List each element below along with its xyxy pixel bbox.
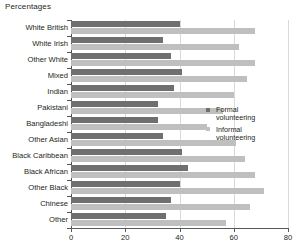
bar-formal [71, 133, 163, 139]
x-axis-tick-label: 80 [278, 233, 298, 242]
chart-legend: Formal volunteering Informal volunteerin… [206, 106, 302, 146]
volunteering-bar-chart: Percentages White BritishWhite IrishOthe… [0, 0, 304, 250]
category-tick [67, 132, 71, 133]
legend-item-informal: Informal volunteering [206, 126, 302, 143]
bar-formal [71, 117, 158, 123]
bar-formal [71, 181, 180, 187]
bar-informal [71, 28, 255, 34]
bar-informal [71, 204, 250, 210]
x-axis-tick [180, 228, 181, 232]
bar-group [71, 165, 288, 181]
category-tick [67, 180, 71, 181]
bar-group [71, 37, 288, 53]
legend-swatch-informal-icon [206, 127, 210, 131]
bar-group [71, 213, 288, 229]
bar-informal [71, 76, 247, 82]
bar-formal [71, 149, 182, 155]
x-axis-tick-label: 20 [115, 233, 135, 242]
bar-formal [71, 53, 171, 59]
bar-group [71, 197, 288, 213]
category-label: Pakistani [2, 104, 68, 112]
bar-informal [71, 220, 226, 226]
bar-group [71, 149, 288, 165]
x-axis-tick-label: 40 [170, 233, 190, 242]
bar-informal [71, 92, 234, 98]
bar-formal [71, 213, 166, 219]
bar-formal [71, 69, 182, 75]
bar-informal [71, 124, 207, 130]
category-tick [67, 164, 71, 165]
bar-formal [71, 165, 188, 171]
category-tick [67, 100, 71, 101]
bar-formal [71, 21, 180, 27]
bar-informal [71, 60, 255, 66]
category-label: White Irish [2, 40, 68, 48]
category-label: Other [2, 216, 68, 224]
x-axis-tick [288, 228, 289, 232]
legend-swatch-formal-icon [206, 108, 210, 112]
category-label: Other Black [2, 184, 68, 192]
bar-informal [71, 188, 264, 194]
x-axis-tick-label: 0 [61, 233, 81, 242]
chart-title: Percentages [5, 2, 51, 11]
bar-informal [71, 172, 255, 178]
category-label: Black Caribbean [2, 152, 68, 160]
bar-formal [71, 101, 158, 107]
bar-formal [71, 37, 163, 43]
category-label: Other White [2, 56, 68, 64]
x-axis-tick-label: 60 [224, 233, 244, 242]
x-axis-tick [125, 228, 126, 232]
legend-label-formal: Formal volunteering [216, 106, 302, 123]
category-tick [67, 148, 71, 149]
category-axis-labels: White BritishWhite IrishOther WhiteMixed… [0, 20, 68, 228]
category-tick [67, 52, 71, 53]
category-label: White British [2, 24, 68, 32]
category-label: Black African [2, 168, 68, 176]
bar-group [71, 85, 288, 101]
category-label: Bangladeshi [2, 120, 68, 128]
bar-group [71, 53, 288, 69]
category-label: Other Asian [2, 136, 68, 144]
category-label: Mixed [2, 72, 68, 80]
category-tick [67, 20, 71, 21]
category-label: Chinese [2, 200, 68, 208]
bar-group [71, 69, 288, 85]
category-tick [67, 116, 71, 117]
bar-formal [71, 197, 171, 203]
legend-label-informal: Informal volunteering [216, 126, 302, 143]
bar-informal [71, 44, 239, 50]
bar-group [71, 21, 288, 37]
category-tick [67, 212, 71, 213]
bar-informal [71, 108, 223, 114]
category-tick [67, 36, 71, 37]
x-axis-tick [71, 228, 72, 232]
bar-formal [71, 85, 174, 91]
category-tick [67, 84, 71, 85]
category-tick [67, 196, 71, 197]
category-label: Indian [2, 88, 68, 96]
x-axis-tick [234, 228, 235, 232]
category-tick [67, 68, 71, 69]
bar-informal [71, 156, 245, 162]
legend-item-formal: Formal volunteering [206, 106, 302, 123]
bar-group [71, 181, 288, 197]
